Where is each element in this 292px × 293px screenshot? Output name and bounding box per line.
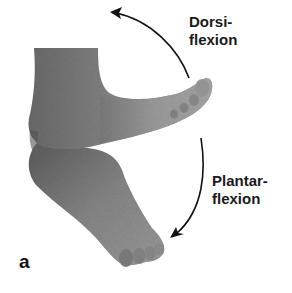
plantarflexion-label: Plantar- flexion xyxy=(212,172,268,208)
plantarflexion-arrow-icon xyxy=(170,138,203,238)
dorsiflexion-arrow-icon xyxy=(110,7,189,78)
plantarflexion-label-line2: flexion xyxy=(212,190,268,208)
ankle-motion-figure: Dorsi- flexion Plantar- flexion a xyxy=(0,0,292,293)
dorsiflexion-label: Dorsi- flexion xyxy=(189,13,237,49)
dorsiflexion-label-line2: flexion xyxy=(189,31,237,49)
dorsiflexion-label-line1: Dorsi- xyxy=(189,13,237,31)
plantarflexed-foot xyxy=(29,140,165,267)
plantarflexion-label-line1: Plantar- xyxy=(212,172,268,190)
foot-illustration xyxy=(0,0,292,293)
panel-letter: a xyxy=(19,251,30,273)
